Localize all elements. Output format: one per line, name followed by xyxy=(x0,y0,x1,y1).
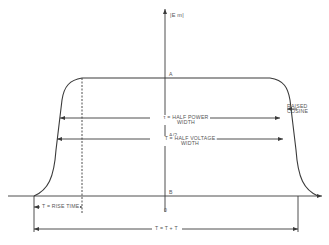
half-power-label: τ = HALF POWER WIDTH xyxy=(162,115,209,125)
half-voltage-text-2: WIDTH xyxy=(181,140,199,146)
rise-time-label: T = RISE TIME xyxy=(41,204,80,209)
raised-cosine-label: RAISED COSINE xyxy=(286,104,309,114)
baseline-label: B xyxy=(168,190,174,195)
peak-level-label: A xyxy=(168,72,174,77)
half-voltage-label: T = HALF VOLTAGE WIDTH xyxy=(164,136,217,146)
y-axis-label: |E m| xyxy=(169,13,185,19)
half-power-text-2: WIDTH xyxy=(177,119,195,125)
origin-label: 0 xyxy=(163,208,168,213)
total-width-label: T = T + T xyxy=(154,226,179,231)
raised-cosine-text-2: COSINE xyxy=(287,108,308,114)
